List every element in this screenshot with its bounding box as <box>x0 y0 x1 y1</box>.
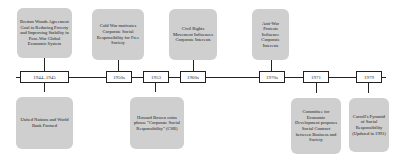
date-1971: 1971 <box>303 71 329 83</box>
connector <box>118 60 119 71</box>
date-1979: 1979 <box>356 71 382 83</box>
connector <box>316 83 317 93</box>
connector <box>155 83 156 92</box>
event-bowen-csr: Howard Bowen coins phrase "Corporate Soc… <box>130 97 184 149</box>
connector <box>193 60 194 71</box>
event-un-world-bank: United Nations and World Bank Formed <box>16 97 73 149</box>
event-bretton-woods: Bretton Woods Agreement Goal to Reducing… <box>17 8 72 58</box>
event-ced-social-contract: Committee for Economic Development propo… <box>291 98 341 154</box>
date-1950s: 1950s <box>106 71 132 83</box>
connector <box>44 58 45 71</box>
event-anti-war: Anti-War Protests Influence Corporate In… <box>252 9 289 60</box>
date-1944-1945: 1944–1945 <box>20 71 69 83</box>
date-1970s: 1970s <box>259 71 285 83</box>
date-1960s: 1960s <box>180 71 206 83</box>
event-carroll-pyramid: Carroll's Pyramid of Social Responsibili… <box>349 98 389 152</box>
event-cold-war: Cold War motivates Corporate Social Resp… <box>92 9 144 60</box>
date-1953: 1953 <box>143 71 169 83</box>
connector <box>271 60 272 71</box>
connector <box>368 83 369 93</box>
connector <box>44 83 45 92</box>
event-civil-rights: Civil Rights Movement Influences Corpora… <box>169 9 217 60</box>
